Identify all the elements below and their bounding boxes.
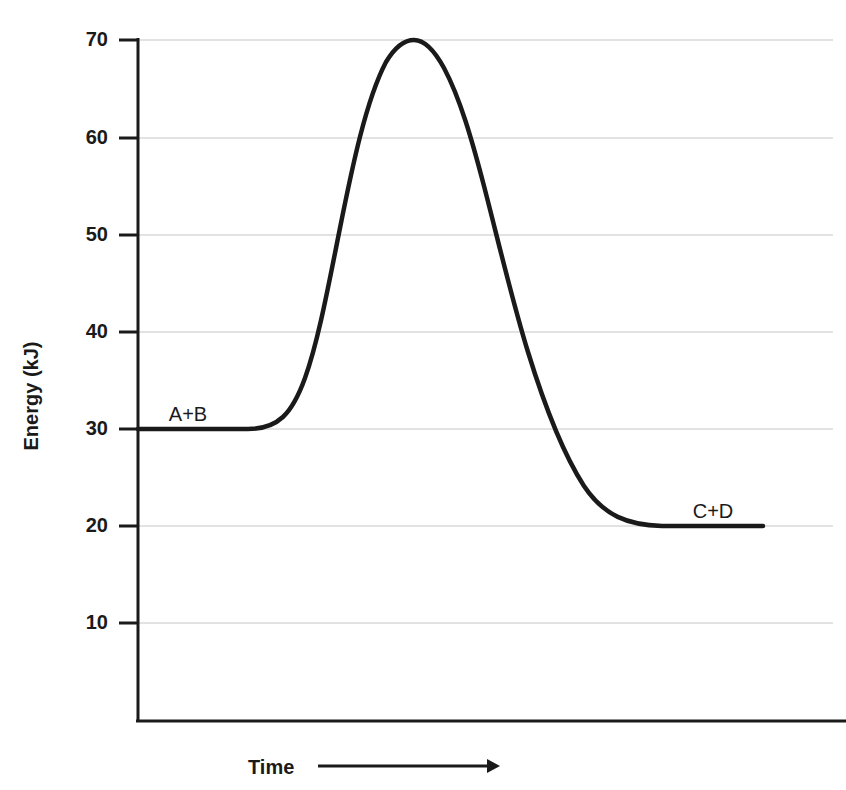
y-tick-label-30: 30 [86, 417, 108, 439]
y-tick-label-10: 10 [86, 611, 108, 633]
gridlines [138, 40, 833, 623]
y-tick-label-60: 60 [86, 126, 108, 148]
reaction-energy-curve [138, 40, 763, 526]
time-arrow-icon [318, 759, 500, 773]
chart-canvas: 70 60 50 40 30 20 10 Energy (kJ) A+B C+D… [0, 0, 846, 790]
y-axis-ticks [119, 40, 139, 623]
y-tick-label-20: 20 [86, 514, 108, 536]
y-tick-label-40: 40 [86, 320, 108, 342]
x-axis-title: Time [248, 756, 294, 778]
reactants-label: A+B [169, 403, 207, 425]
energy-profile-figure: 70 60 50 40 30 20 10 Energy (kJ) A+B C+D… [0, 0, 846, 790]
y-axis-title: Energy (kJ) [20, 342, 42, 451]
products-label: C+D [693, 500, 734, 522]
y-tick-label-70: 70 [86, 28, 108, 50]
y-tick-label-50: 50 [86, 223, 108, 245]
